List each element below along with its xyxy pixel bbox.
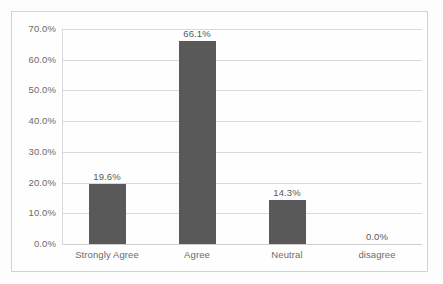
y-axis-tick: 20.0% [8,177,56,189]
x-axis-category-label: disagree [327,249,427,260]
gridline [62,29,422,30]
bar-data-label: 14.3% [242,187,332,198]
bar [269,200,306,244]
y-axis-tick-label: 50.0% [10,84,56,95]
bar-chart: 0.0%10.0%20.0%30.0%40.0%50.0%60.0%70.0% … [0,0,443,284]
gridline [62,90,422,91]
y-axis-tick: 30.0% [8,146,56,158]
bar-data-label: 19.6% [62,171,152,182]
y-axis-tick-label: 0.0% [10,238,56,249]
gridline [62,152,422,153]
x-axis-category-label: Strongly Agree [57,249,157,260]
y-axis-tick-label: 70.0% [10,23,56,34]
y-axis-tick-label: 30.0% [10,146,56,157]
y-axis-line [62,29,63,245]
y-axis-tick-label: 10.0% [10,207,56,218]
y-axis-tick: 0.0% [8,238,56,250]
y-axis-tick: 70.0% [8,23,56,35]
y-axis-tick-label: 40.0% [10,115,56,126]
gridline [62,60,422,61]
bar [89,184,126,244]
y-axis-tick: 50.0% [8,84,56,96]
gridline [62,244,422,245]
bar-data-label: 66.1% [152,28,242,39]
bar [179,41,216,244]
x-axis-category-label: Agree [147,249,247,260]
y-axis-tick: 60.0% [8,54,56,66]
bar-data-label: 0.0% [332,231,422,242]
y-axis-tick: 10.0% [8,207,56,219]
y-axis-tick: 40.0% [8,115,56,127]
gridline [62,121,422,122]
y-axis-tick-label: 20.0% [10,177,56,188]
y-axis-tick-label: 60.0% [10,54,56,65]
x-axis-category-label: Neutral [237,249,337,260]
